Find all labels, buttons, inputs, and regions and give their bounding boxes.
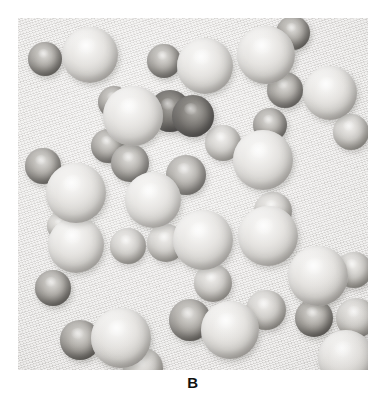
particle xyxy=(288,246,348,306)
particle xyxy=(35,270,71,306)
particle xyxy=(238,206,298,266)
particle xyxy=(46,163,106,223)
particle xyxy=(62,27,118,83)
particle xyxy=(201,301,259,359)
panel-label: B xyxy=(0,374,386,391)
particle xyxy=(125,172,181,228)
particle xyxy=(237,26,295,84)
particle xyxy=(233,130,293,190)
figure-panel-b: B xyxy=(0,0,386,411)
particle xyxy=(172,95,214,137)
particle xyxy=(28,42,62,76)
particle xyxy=(177,38,233,94)
micrograph-image xyxy=(18,18,368,370)
particle xyxy=(173,210,233,270)
particle xyxy=(103,86,163,146)
particle xyxy=(303,66,357,120)
particle xyxy=(147,44,181,78)
particle xyxy=(91,308,151,368)
particle xyxy=(333,114,368,150)
particle xyxy=(48,217,104,273)
particle xyxy=(110,228,146,264)
